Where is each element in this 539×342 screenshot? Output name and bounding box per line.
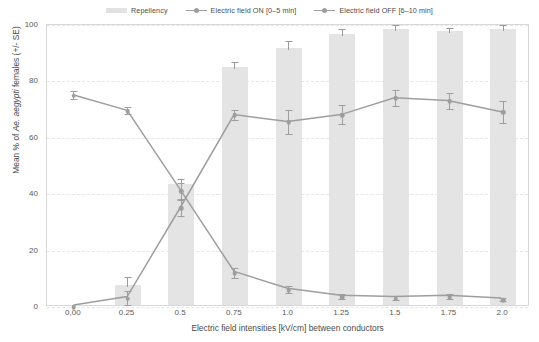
legend-item-field-on[interactable]: Electric field ON [0–5 min] [186,6,297,15]
legend-item-field-off[interactable]: Electric field OFF [6–10 min] [314,6,433,15]
legend-item-repellency[interactable]: Repellency [106,6,168,15]
data-point-marker [394,296,399,301]
y-tick-label: 100 [25,20,38,29]
data-point-marker [501,110,506,115]
line-marker-icon [186,7,207,14]
data-point-marker [447,295,452,300]
data-point-marker [125,109,130,114]
x-tick-label: 1.75 [441,308,457,317]
legend-label-repellency: Repellency [131,6,168,15]
chart-legend: Repellency Electric field ON [0–5 min] E… [0,3,539,17]
bar-swatch-icon [106,8,127,13]
legend-label-field-off: Electric field OFF [6–10 min] [339,6,433,15]
y-axis-label: Mean % of Ae. aegypti females (+/- SE) [11,0,21,225]
data-point-marker [340,295,345,300]
x-tick-label: 0.75 [226,308,242,317]
x-tick-label: 1.25 [333,308,349,317]
y-tick-label: 60 [29,132,38,141]
y-tick-label: 80 [29,76,38,85]
data-point-marker [286,288,291,293]
data-point-marker [179,206,184,211]
data-point-marker [179,189,184,194]
data-point-marker [233,113,238,118]
line-series-layer [47,25,528,305]
data-point-marker [286,120,291,125]
x-tick-label: 0,00 [65,308,81,317]
plot-area [46,24,529,306]
x-tick-label: 1.0 [282,308,293,317]
x-tick-label: 1.5 [389,308,400,317]
data-point-marker [501,298,506,303]
data-point-marker [394,96,399,101]
x-tick-label: 0.25 [119,308,135,317]
data-point-marker [447,99,452,104]
chart-figure: Repellency Electric field ON [0–5 min] E… [0,0,539,342]
data-point-marker [340,113,345,118]
line-marker-icon [314,7,335,14]
y-tick-label: 40 [29,189,38,198]
data-point-marker [233,271,238,276]
data-point-marker [72,93,77,98]
y-axis-ticks: 020406080100 [0,24,44,306]
y-tick-label: 20 [29,245,38,254]
x-axis-ticks: 0,000.250.50.751.01.251.51.752.0 [46,308,529,322]
x-tick-label: 2.0 [497,308,508,317]
x-axis-label: Electric field intensities [kV/cm] betwe… [46,323,529,333]
y-tick-label: 0 [34,302,38,311]
x-tick-label: 0.5 [175,308,186,317]
data-point-marker [125,296,130,301]
legend-label-field-on: Electric field ON [0–5 min] [211,6,297,15]
